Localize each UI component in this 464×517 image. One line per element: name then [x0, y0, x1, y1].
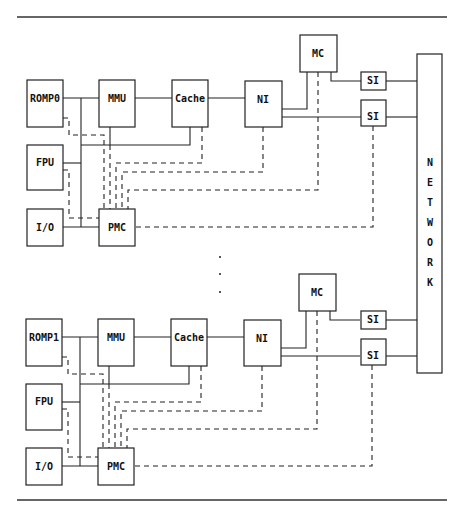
cache-pmc-monitor	[116, 127, 202, 209]
processor-node-1: ROMP1 MMU Cache NI MC SI SI FPU I/O PMC	[26, 274, 417, 485]
network-label-letter: O	[427, 237, 433, 248]
cache-label: Cache	[174, 332, 204, 343]
fpu-label: FPU	[36, 157, 54, 168]
network-label-letter: W	[427, 217, 434, 228]
cache-label: Cache	[175, 93, 205, 104]
cache-bus-link	[80, 366, 189, 384]
processor-node-0: ROMP0 MMU Cache NI MC SI SI FPU I/O PMC	[27, 35, 417, 246]
ni-pmc-monitor	[122, 127, 263, 209]
mc-si-link	[330, 311, 360, 320]
io-label: I/O	[36, 222, 54, 233]
mc-label: MC	[312, 48, 324, 59]
network-label-letter: E	[427, 177, 433, 188]
network-label-letter: T	[427, 197, 433, 208]
ni-label: NI	[257, 94, 269, 105]
io-label: I/O	[35, 461, 53, 472]
pmc-label: PMC	[108, 222, 126, 233]
cache-bus-link	[81, 127, 190, 145]
mmu-label: MMU	[107, 332, 125, 343]
mc-pmc-monitor	[128, 72, 318, 209]
romp-label: ROMP0	[30, 93, 60, 104]
si-top-label: SI	[367, 75, 379, 86]
mmu-label: MMU	[108, 93, 126, 104]
network-label-letter: R	[427, 257, 434, 268]
romp-label: ROMP1	[29, 332, 59, 343]
fpu-label: FPU	[35, 396, 53, 407]
ni-label: NI	[256, 333, 268, 344]
si-bottom-label: SI	[367, 111, 379, 122]
network-label-letter: N	[427, 157, 433, 168]
ni-mc-link	[281, 311, 306, 348]
ni-pmc-monitor	[121, 366, 262, 448]
ni-mc-link	[282, 72, 307, 109]
si-pmc-monitor	[134, 365, 372, 466]
network-label-letter: K	[427, 277, 433, 288]
cache-pmc-monitor	[115, 366, 201, 448]
multiprocessor-architecture-diagram: NETWORK ROMP0	[0, 0, 464, 517]
si-pmc-monitor	[135, 126, 373, 227]
mc-label: MC	[311, 287, 323, 298]
network-block: NETWORK	[417, 54, 442, 373]
pmc-label: PMC	[107, 461, 125, 472]
vertical-ellipsis	[219, 256, 221, 293]
si-bottom-label: SI	[367, 350, 379, 361]
mc-pmc-monitor	[127, 311, 317, 448]
si-top-label: SI	[367, 314, 379, 325]
mc-si-link	[331, 72, 361, 81]
fpu-block	[26, 384, 62, 430]
